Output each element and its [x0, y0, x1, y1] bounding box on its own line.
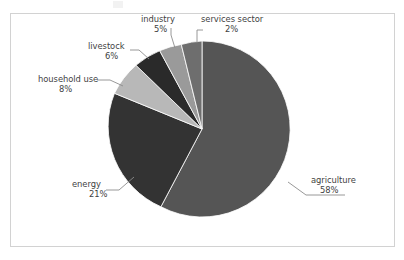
pie-label-services-sector-value: 2%: [201, 24, 263, 34]
pie-label-livestock-name: livestock: [88, 41, 125, 51]
pie-label-household-use-value: 8%: [38, 84, 98, 94]
pie-label-industry: industry 5%: [141, 14, 175, 35]
pie-label-agriculture-name: agriculture: [311, 175, 356, 185]
pie-label-household-use: household use 8%: [38, 74, 98, 95]
pie-label-industry-name: industry: [141, 14, 175, 24]
pie-label-services-sector-name: services sector: [201, 14, 263, 24]
pie-label-energy-value: 21%: [72, 189, 107, 199]
pie-chart: [0, 0, 404, 260]
pie-label-household-use-name: household use: [38, 74, 98, 84]
pie-label-livestock: livestock 6%: [88, 41, 125, 62]
pie-label-services-sector: services sector 2%: [201, 14, 263, 35]
pie-label-livestock-value: 6%: [88, 51, 125, 61]
pie-label-energy: energy 21%: [72, 179, 107, 200]
pie-label-industry-value: 5%: [141, 24, 175, 34]
pie-label-agriculture-value: 58%: [311, 185, 356, 195]
pie-label-energy-name: energy: [72, 179, 107, 189]
pie-label-agriculture: agriculture 58%: [311, 175, 356, 196]
